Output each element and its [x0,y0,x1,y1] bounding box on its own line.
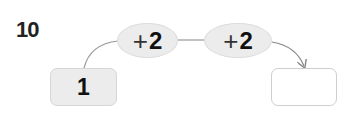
operation-bubble-1: + 2 [117,23,178,58]
operation-bubble-2: + 2 [204,23,272,58]
operation-value: 2 [239,29,252,53]
operation-value: 2 [149,29,162,53]
plus-sign: + [223,28,238,54]
plus-sign: + [133,28,148,54]
arrow-op2-to-answer [272,42,304,66]
answer-box[interactable] [271,68,337,106]
curve-start-to-op1 [84,41,118,68]
start-value-box: 1 [50,68,117,106]
